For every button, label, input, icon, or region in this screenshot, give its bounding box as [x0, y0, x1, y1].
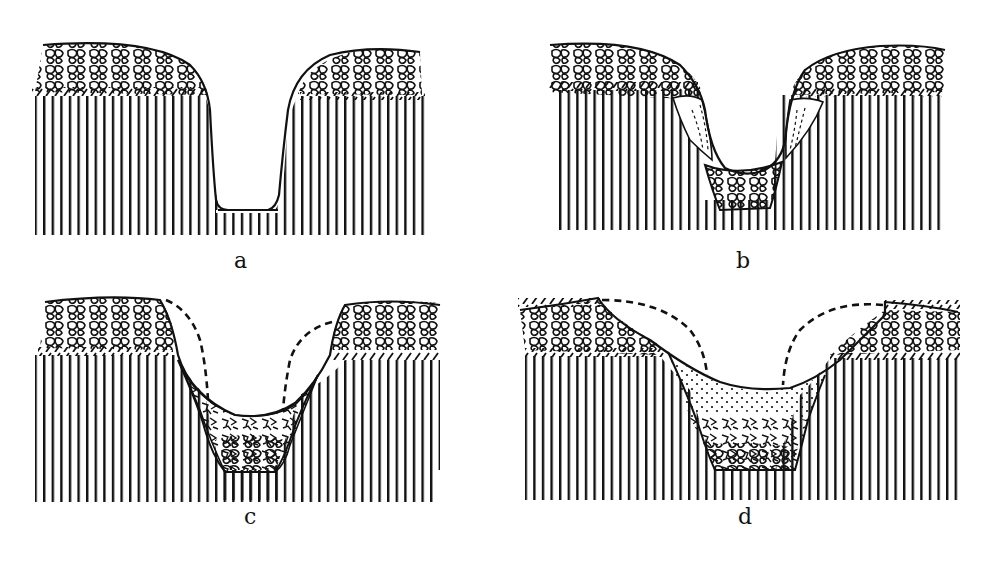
panel-d-diagram [518, 298, 960, 500]
diagram-canvas: a b [0, 0, 990, 567]
panel-a-label: a [234, 248, 247, 273]
panel-b-label: b [736, 248, 750, 273]
panel-a-diagram [32, 43, 425, 235]
panel-c-label: c [244, 504, 256, 529]
panel-b-diagram [548, 44, 945, 230]
valley-evolution-figure: a b [0, 0, 990, 567]
panel-d-label: d [738, 504, 752, 529]
panel-c-diagram [33, 297, 443, 504]
